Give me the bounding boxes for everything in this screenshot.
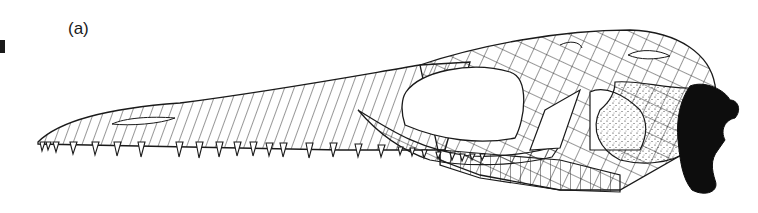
skull-illustration: [0, 0, 758, 213]
dark-quadrate: [678, 84, 739, 193]
